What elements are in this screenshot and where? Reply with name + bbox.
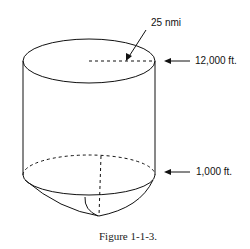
figure-caption: Figure 1-1-3. [99,230,157,242]
radius-label: 25 nmi [151,17,181,28]
bottom-ellipse-back [23,155,155,175]
top-altitude-arrowhead [164,58,171,64]
vertical-dashed-axis [99,156,101,216]
bottom-altitude-arrowhead [164,169,171,175]
airspace-cylinder-diagram [0,0,250,249]
top-altitude-label: 12,000 ft. [195,55,237,66]
bottom-ellipse-front [23,175,155,195]
bottom-altitude-label: 1,000 ft. [196,166,232,177]
radius-pointer-arrowhead [126,53,132,61]
